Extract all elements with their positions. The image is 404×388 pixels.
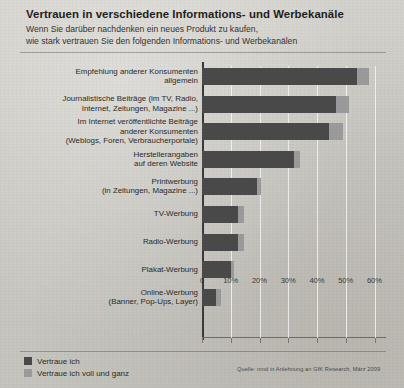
x-axis <box>202 337 386 338</box>
bar-segment-trust <box>202 234 238 251</box>
bar-group <box>202 178 261 195</box>
chart-figure: Vertrauen in verschiedene Informations- … <box>0 0 404 388</box>
category-label: Journalistische Beiträge (im TV, Radio, … <box>62 94 198 112</box>
chart-subtitle-line2: wie stark vertrauen Sie den folgenden In… <box>26 36 297 46</box>
bar-segment-trust <box>202 178 257 195</box>
bar-segment-trust <box>202 123 329 140</box>
x-axis-tick-label: 30% <box>281 276 296 285</box>
x-axis-tick <box>375 338 376 343</box>
category-label: TV-Werbung <box>154 209 198 218</box>
category-label: Plakat-Werbung <box>142 265 198 274</box>
x-axis-tick <box>346 338 347 343</box>
legend-item-trust: Vertraue ich <box>24 355 129 367</box>
bar-segment-full-trust <box>238 206 244 223</box>
bar-segment-full-trust <box>357 68 369 85</box>
bar-segment-full-trust <box>257 178 261 195</box>
bar-segment-full-trust <box>336 96 349 113</box>
x-axis-tick-label: 10% <box>223 276 238 285</box>
divider-bottom <box>20 351 386 352</box>
x-axis-tick-label: 0 <box>200 276 204 285</box>
x-axis-tick-label: 50% <box>338 276 353 285</box>
legend-item-full-trust: Vertraue ich voll und ganz <box>24 367 129 379</box>
bar-segment-full-trust <box>238 234 244 251</box>
plot-area <box>202 66 386 338</box>
bar-segment-full-trust <box>329 123 343 140</box>
bar-group <box>202 68 369 85</box>
category-label: Online-Werbung (Banner, Pop-Ups, Layer) <box>109 288 198 306</box>
x-axis-tick <box>317 338 318 343</box>
category-label: Radio-Werbung <box>143 237 198 246</box>
bar-segment-full-trust <box>294 151 300 168</box>
category-label: Herstellerangaben auf deren Website <box>134 150 198 168</box>
x-axis-tick <box>202 338 203 343</box>
x-axis-tick-label: 20% <box>252 276 267 285</box>
x-axis-tick <box>260 338 261 343</box>
bar-group <box>202 151 300 168</box>
source-note: Quelle: nmd in Anlehnung an GfK Research… <box>237 366 380 372</box>
gridline <box>375 66 376 338</box>
legend-label-full-trust: Vertraue ich voll und ganz <box>37 369 129 378</box>
category-label: Printwerbung (in Zeitungen, Magazine ...… <box>102 177 198 195</box>
x-axis-tick-label: 40% <box>309 276 324 285</box>
bar-segment-trust <box>202 206 238 223</box>
category-label: Empfehlung anderer Konsumenten allgemein <box>76 67 198 85</box>
bar-segment-trust <box>202 151 294 168</box>
chart-title: Vertrauen in verschiedene Informations- … <box>26 8 344 20</box>
bar-group <box>202 206 244 223</box>
category-label: Im Internet veröffentlichte Beiträge and… <box>66 117 198 145</box>
legend-swatch-trust <box>24 357 32 365</box>
x-axis-tick <box>288 338 289 343</box>
bar-group <box>202 96 349 113</box>
bar-segment-trust <box>202 68 357 85</box>
bar-group <box>202 123 343 140</box>
bar-segment-full-trust <box>216 289 220 306</box>
bar-group <box>202 234 244 251</box>
divider-top <box>20 52 386 53</box>
legend-label-trust: Vertraue ich <box>37 357 80 366</box>
legend-swatch-full-trust <box>24 369 32 377</box>
chart-legend: Vertraue ich Vertraue ich voll und ganz <box>24 355 129 379</box>
bar-group <box>202 289 221 306</box>
chart-subtitle-line1: Wenn Sie darüber nachdenken ein neues Pr… <box>26 24 258 34</box>
x-axis-tick-label: 60% <box>367 276 382 285</box>
x-axis-tick <box>231 338 232 343</box>
bar-segment-trust <box>202 96 336 113</box>
bar-segment-trust <box>202 289 216 306</box>
